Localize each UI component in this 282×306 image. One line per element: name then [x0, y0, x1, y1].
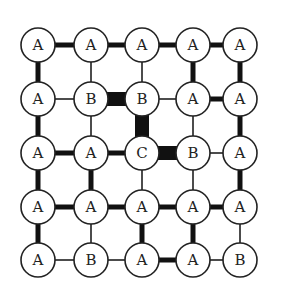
node-label: A [136, 36, 148, 54]
lattice-node: A [176, 82, 210, 116]
node-label: A [234, 144, 246, 162]
lattice-node: B [176, 136, 210, 170]
lattice-node: A [176, 190, 210, 224]
lattice-node: A [74, 136, 108, 170]
node-label: A [32, 251, 44, 269]
node-label: A [187, 251, 199, 269]
lattice-diagram: AAAAAABBAAAACBAAAAAAABAAB [0, 0, 282, 306]
node-label: A [234, 36, 246, 54]
lattice-node: A [125, 28, 159, 62]
lattice-node: C [125, 136, 159, 170]
lattice-node: A [21, 243, 55, 277]
lattice-node: A [125, 190, 159, 224]
lattice-node: A [223, 190, 257, 224]
lattice-node: A [223, 136, 257, 170]
node-label: A [234, 90, 246, 108]
lattice-node: B [74, 243, 108, 277]
node-label: A [187, 36, 199, 54]
node-label: A [234, 198, 246, 216]
node-label: A [187, 198, 199, 216]
node-label: C [136, 144, 147, 162]
lattice-node: B [223, 243, 257, 277]
lattice-node: B [74, 82, 108, 116]
lattice-node: A [125, 243, 159, 277]
lattice-node: A [223, 28, 257, 62]
node-label: A [32, 198, 44, 216]
node-label: A [136, 198, 148, 216]
lattice-node: A [21, 82, 55, 116]
node-label: A [85, 144, 97, 162]
node-label: A [85, 36, 97, 54]
node-label: A [85, 198, 97, 216]
node-label: B [187, 144, 198, 162]
lattice-node: A [223, 82, 257, 116]
lattice-node: A [176, 28, 210, 62]
lattice-node: B [125, 82, 159, 116]
node-label: B [85, 90, 96, 108]
lattice-node: A [74, 190, 108, 224]
node-label: A [32, 36, 44, 54]
lattice-node: A [21, 190, 55, 224]
node-label: A [32, 90, 44, 108]
lattice-node: A [21, 136, 55, 170]
node-label: B [234, 251, 245, 269]
node-label: B [136, 90, 147, 108]
node-label: A [187, 90, 199, 108]
node-label: A [32, 144, 44, 162]
lattice-node: A [176, 243, 210, 277]
lattice-node: A [74, 28, 108, 62]
node-label: B [85, 251, 96, 269]
node-label: A [136, 251, 148, 269]
lattice-node: A [21, 28, 55, 62]
